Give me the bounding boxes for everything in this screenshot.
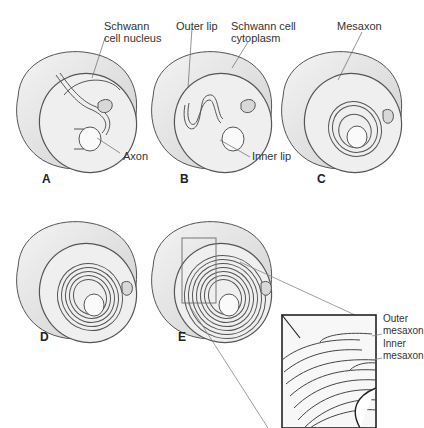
panel-letter-e: E [178,330,186,344]
label-line: mesaxon [383,350,424,362]
label-line: cell nucleus [104,32,161,44]
inset-magnified-view [282,315,382,428]
label-line: Schwann [104,20,161,32]
label-mesaxon: Mesaxon [337,20,382,32]
panel-b-illustration [152,52,290,191]
panel-letter-b: B [180,172,189,186]
label-schwann-cell-nucleus: Schwann cell nucleus [104,20,161,44]
label-line: mesaxon [383,325,424,337]
label-line: Schwann cell [231,20,296,32]
label-line: cytoplasm [231,32,296,44]
label-inner-lip: Inner lip [252,150,291,162]
panel-d-illustration [17,222,155,361]
panel-a-illustration [17,52,155,191]
panel-letter-a: A [42,172,51,186]
label-schwann-cell-cytoplasm: Schwann cell cytoplasm [231,20,296,44]
panel-letter-d: D [40,330,49,344]
label-outer-mesaxon: Outer mesaxon [383,313,424,337]
panel-e-illustration [152,222,290,361]
label-line: Outer [383,313,424,325]
label-line: Inner [383,338,424,350]
panel-letter-c: C [317,172,326,186]
label-axon: Axon [123,150,148,162]
label-inner-mesaxon: Inner mesaxon [383,338,424,362]
label-outer-lip: Outer lip [176,20,218,32]
panel-c-illustration [282,52,415,191]
